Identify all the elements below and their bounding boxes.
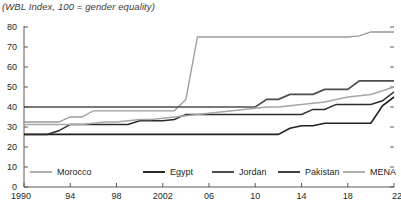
legend-label-pakistan[interactable]: Pakistan <box>305 167 340 177</box>
y-tick-label: 80 <box>7 22 17 32</box>
x-tick-label: 14 <box>296 191 306 201</box>
x-tick-label: 10 <box>250 191 260 201</box>
x-tick-label: 2002 <box>153 191 173 201</box>
line-chart-plot: 01020304050607080 1990949820020610141822… <box>0 0 401 216</box>
y-tick-label: 40 <box>7 102 17 112</box>
series-line-egypt <box>24 97 394 134</box>
x-tick-label: 98 <box>111 191 121 201</box>
series-line-jordan <box>24 81 394 107</box>
x-tick-label: 22 <box>392 191 401 201</box>
legend-label-mena[interactable]: MENA <box>370 167 396 177</box>
series-line-morocco <box>24 32 394 122</box>
chart-legend: MoroccoEgyptJordanPakistanMENA <box>30 167 396 177</box>
y-tick-label: 70 <box>7 42 17 52</box>
y-tick-label: 10 <box>7 162 17 172</box>
x-tick-label: 18 <box>343 191 353 201</box>
y-tick-label: 60 <box>7 62 17 72</box>
y-tick-label: 20 <box>7 142 17 152</box>
x-axis-ticks: 1990949820020610141822 <box>11 183 401 201</box>
y-tick-label: 30 <box>7 122 17 132</box>
legend-label-egypt[interactable]: Egypt <box>170 167 194 177</box>
series-lines <box>24 32 394 134</box>
y-tick-label: 50 <box>7 82 17 92</box>
chart-container: (WBL Index, 100 = gender equality) 01020… <box>0 0 401 216</box>
x-tick-label: 1990 <box>11 191 31 201</box>
x-tick-label: 06 <box>204 191 214 201</box>
series-line-mena <box>24 87 394 124</box>
x-tick-label: 94 <box>65 191 75 201</box>
legend-label-jordan[interactable]: Jordan <box>239 167 267 177</box>
legend-label-morocco[interactable]: Morocco <box>57 167 92 177</box>
